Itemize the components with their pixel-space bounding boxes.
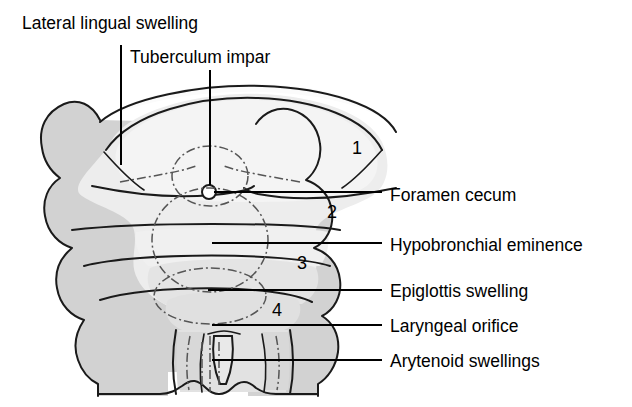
label-hypobronchial-eminence: Hypobronchial eminence [390,235,583,255]
label-laryngeal-orifice: Laryngeal orifice [390,316,518,336]
arch-number-2: 2 [327,202,337,222]
label-epiglottis-swelling: Epiglottis swelling [390,281,528,301]
arch-number-1: 1 [352,138,362,158]
foramen-cecum-marker [202,185,216,199]
label-tuberculum-impar: Tuberculum impar [130,47,271,67]
embryo-floor-drawing [41,84,396,396]
label-group-top: Lateral lingual swelling Tuberculum impa… [22,13,271,67]
label-group-right: Foramen cecum Hypobronchial eminence Epi… [390,185,583,371]
label-lateral-lingual-swelling: Lateral lingual swelling [22,13,198,33]
label-arytenoid-swellings: Arytenoid swellings [390,351,540,371]
arch-number-3: 3 [297,253,307,273]
pharyngeal-floor-diagram: 1 2 3 4 Lateral lingual swelling Tubercu… [0,0,632,407]
anatomical-figure: 1 2 3 4 Lateral lingual swelling Tubercu… [0,0,632,407]
arch-number-4: 4 [272,300,282,320]
label-foramen-cecum: Foramen cecum [390,185,516,205]
